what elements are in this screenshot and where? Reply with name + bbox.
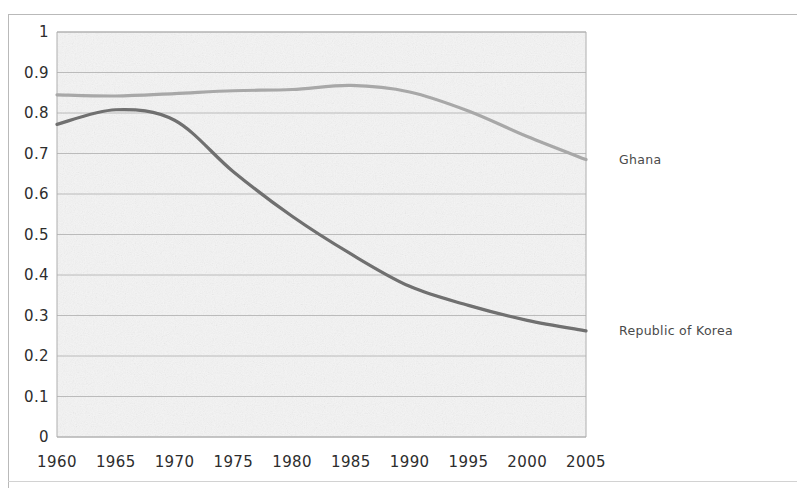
x-tick-label: 1995 — [441, 455, 495, 470]
x-tick-label: 1965 — [89, 455, 143, 470]
y-tick-label: 0.5 — [9, 228, 49, 243]
x-tick-label: 1960 — [30, 455, 84, 470]
y-tick-label: 0.3 — [9, 309, 49, 324]
chart-page: 00.10.20.30.40.50.60.70.80.91 1960196519… — [0, 0, 801, 488]
x-tick-label: 1990 — [383, 455, 437, 470]
y-tick-label: 0.7 — [9, 147, 49, 162]
series-label-ghana: Ghana — [619, 153, 661, 166]
x-tick-label: 1970 — [148, 455, 202, 470]
y-tick-label: 0.9 — [9, 66, 49, 81]
x-tick-label: 1985 — [324, 455, 378, 470]
y-tick-label: 0.4 — [9, 268, 49, 283]
y-tick-label: 1 — [9, 25, 49, 40]
y-tick-label: 0.8 — [9, 106, 49, 121]
y-tick-label: 0.2 — [9, 349, 49, 364]
x-tick-label: 2000 — [500, 455, 554, 470]
plot-area — [57, 32, 586, 437]
x-tick-label: 1980 — [265, 455, 319, 470]
y-tick-label: 0 — [9, 430, 49, 445]
series-label-republic-of-korea: Republic of Korea — [619, 324, 733, 337]
x-tick-label: 2005 — [559, 455, 613, 470]
y-tick-label: 0.6 — [9, 187, 49, 202]
y-tick-label: 0.1 — [9, 390, 49, 405]
line-chart — [0, 0, 801, 488]
x-tick-label: 1975 — [206, 455, 260, 470]
